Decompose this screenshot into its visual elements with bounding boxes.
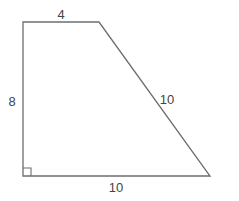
top-side-label: 4	[57, 7, 64, 22]
trapezoid-diagram: 4 8 10 10	[0, 0, 239, 201]
left-side-label: 8	[8, 94, 15, 109]
bottom-side-label: 10	[109, 180, 123, 195]
right-angle-marker-icon	[23, 168, 31, 176]
trapezoid-shape	[23, 22, 210, 176]
slant-side-label: 10	[160, 92, 174, 107]
trapezoid-figure: 4 8 10 10	[0, 0, 239, 201]
